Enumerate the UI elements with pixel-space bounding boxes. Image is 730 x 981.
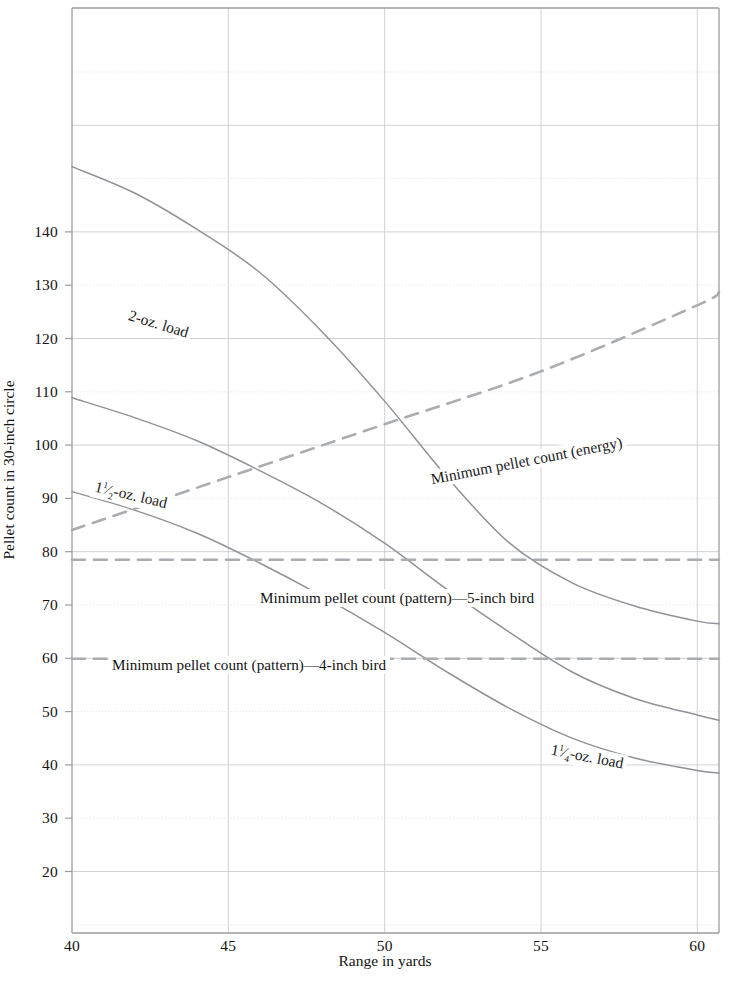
x-axis-title: Range in yards: [339, 952, 432, 970]
x-tick-40: 40: [64, 937, 80, 955]
y-tick-70: 70: [8, 596, 58, 614]
y-axis-title: Pellet count in 30-inch circle: [0, 380, 18, 559]
y-tick-60: 60: [8, 649, 58, 667]
y-tick-marks: [65, 232, 72, 872]
x-tick-55: 55: [533, 937, 549, 955]
x-tick-60: 60: [689, 937, 705, 955]
y-tick-40: 40: [8, 756, 58, 774]
plot-background: [72, 8, 719, 933]
curve-label-minimum-pattern-4inch: Minimum pellet count (pattern)—4-inch bi…: [108, 656, 390, 674]
y-tick-120: 120: [8, 330, 58, 348]
y-tick-30: 30: [8, 809, 58, 827]
y-tick-130: 130: [8, 276, 58, 294]
curve-label-minimum-pattern-5inch: Minimum pellet count (pattern)—5-inch bi…: [256, 589, 538, 607]
y-tick-50: 50: [8, 703, 58, 721]
x-tick-45: 45: [220, 937, 236, 955]
y-tick-20: 20: [8, 863, 58, 881]
chart-figure: 140 130 120 110 100 90 80 70 60 50 40 30…: [0, 0, 730, 981]
y-tick-140: 140: [8, 223, 58, 241]
